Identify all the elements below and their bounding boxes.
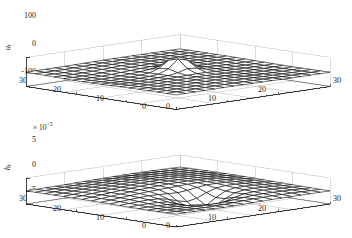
surface-plot-top: ut 100 0 -100 30 20 10 0 0 10 20 30 <box>0 0 352 119</box>
surface-mesh-bottom <box>0 119 352 238</box>
surface-mesh-top <box>0 0 352 119</box>
figure-container: ut 100 0 -100 30 20 10 0 0 10 20 30 ht ×… <box>0 0 352 238</box>
surface-plot-bottom: ht × 10−5 5 0 -5 30 20 10 0 0 10 20 30 <box>0 119 352 238</box>
